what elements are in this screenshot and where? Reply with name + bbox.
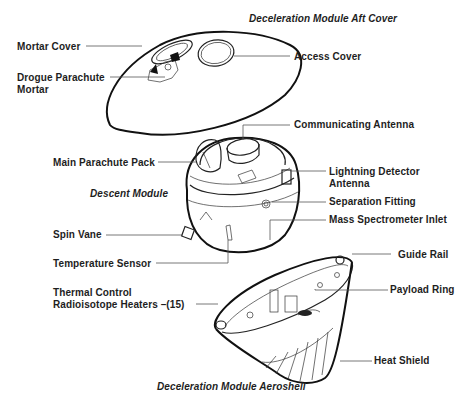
label-separation-fitting: Separation Fitting bbox=[329, 196, 416, 208]
label-mass-spectrometer-inlet: Mass Spectrometer Inlet bbox=[329, 214, 447, 226]
descent-module-body bbox=[182, 137, 300, 252]
label-drogue-parachute-mortar: Drogue Parachute Mortar bbox=[17, 72, 105, 96]
aft-cover-shell bbox=[107, 32, 301, 135]
label-main-parachute-pack: Main Parachute Pack bbox=[53, 157, 155, 169]
label-spin-vane: Spin Vane bbox=[53, 229, 102, 241]
label-lightning-detector-antenna: Lightning Detector Antenna bbox=[329, 166, 420, 190]
label-communicating-antenna: Communicating Antenna bbox=[294, 119, 414, 131]
label-access-cover: Access Cover bbox=[294, 51, 361, 63]
probe-exploded-diagram: Deceleration Module Aft Cover Mortar Cov… bbox=[0, 0, 474, 407]
label-guide-rail: Guide Rail bbox=[398, 249, 448, 261]
label-thermal-control-heaters: Thermal Control Radioisotope Heaters –(1… bbox=[53, 287, 185, 311]
aeroshell-title: Deceleration Module Aeroshell bbox=[157, 381, 306, 393]
aft-cover-title: Deceleration Module Aft Cover bbox=[249, 13, 397, 25]
aeroshell-body bbox=[215, 256, 353, 383]
label-mortar-cover: Mortar Cover bbox=[17, 41, 80, 53]
label-heat-shield: Heat Shield bbox=[374, 355, 430, 367]
label-payload-ring: Payload Ring bbox=[390, 284, 455, 296]
descent-module-title: Descent Module bbox=[90, 188, 168, 200]
label-temperature-sensor: Temperature Sensor bbox=[53, 258, 151, 270]
